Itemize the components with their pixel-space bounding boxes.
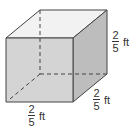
cube-figure [0,0,139,130]
depth-label: 25 ft [93,88,110,111]
width-label: 25 ft [28,104,45,127]
height-label: 25 ft [112,30,129,53]
